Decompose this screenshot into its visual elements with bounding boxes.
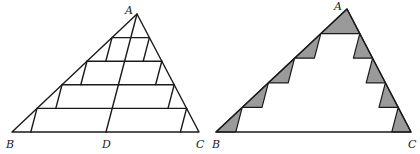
triangle-abc — [12, 14, 199, 132]
label-b-right: B — [211, 138, 220, 151]
label-c-left: C — [196, 138, 205, 151]
left-triangle-figure: A B D C — [5, 4, 205, 151]
shaded-right-2 — [366, 58, 385, 83]
label-a-left: A — [124, 4, 133, 17]
right-slant-2 — [156, 61, 162, 85]
shaded-right-1 — [353, 34, 372, 59]
right-triangle-figure: A B C — [211, 0, 417, 151]
figure-canvas: A B D C A B C — [0, 0, 420, 154]
right-slant-1 — [143, 38, 149, 62]
label-b-left: B — [5, 138, 14, 151]
label-c-right: C — [408, 138, 417, 151]
label-a-right: A — [333, 0, 342, 13]
right-slant-4 — [180, 108, 186, 132]
triangle-abc-right — [216, 9, 411, 132]
segment-ad — [106, 14, 137, 132]
right-slant-3 — [168, 85, 174, 109]
shaded-right-3 — [379, 83, 398, 108]
label-d-left: D — [101, 138, 111, 151]
shaded-right-4 — [392, 107, 411, 132]
